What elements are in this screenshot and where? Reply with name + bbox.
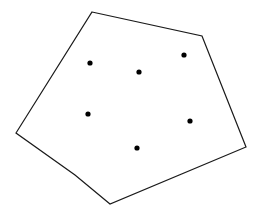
geometry-figure (0, 0, 261, 217)
interior-point-6 (134, 145, 139, 150)
interior-point-2 (136, 69, 141, 74)
interior-point-1 (87, 60, 92, 65)
polygon-outline (16, 12, 246, 204)
interior-point-5 (187, 118, 192, 123)
figure-canvas (0, 0, 261, 217)
interior-point-4 (85, 111, 90, 116)
interior-point-3 (181, 52, 186, 57)
interior-points-group (85, 52, 192, 150)
